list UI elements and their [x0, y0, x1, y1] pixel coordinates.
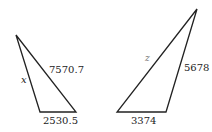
- right-right-label: 5678: [184, 63, 209, 73]
- left-hyp-label: 7570.7: [49, 65, 84, 75]
- right-side-label: z: [145, 54, 150, 63]
- left-side-label: x: [21, 75, 27, 85]
- right-base-label: 3374: [131, 116, 156, 126]
- right-triangle: [117, 9, 197, 112]
- left-base-label: 2530.5: [43, 116, 78, 126]
- triangles-diagram: [0, 0, 212, 132]
